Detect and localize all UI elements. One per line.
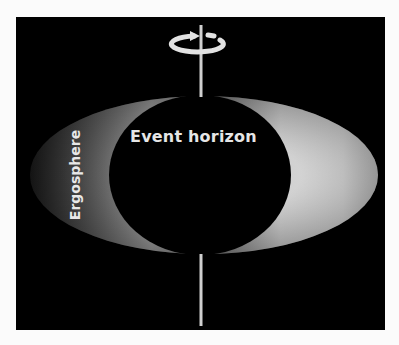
event-horizon-sphere [109,95,291,255]
ergosphere-label: Ergosphere [67,130,83,220]
event-horizon-label: Event horizon [130,127,257,146]
black-hole-diagram [0,0,399,345]
rotation-arrow-icon [171,31,223,52]
